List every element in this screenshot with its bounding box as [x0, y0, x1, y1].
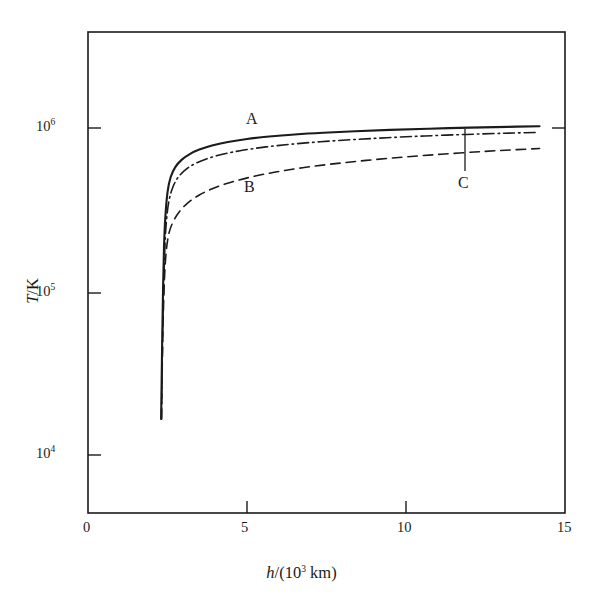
x-axis-title-open: /(10: [275, 563, 302, 582]
y-tick-label-1e4: 104: [36, 445, 55, 462]
y-tick-label-1e6: 106: [36, 118, 55, 135]
y-axis-ticks: [88, 128, 565, 455]
plot-frame: [88, 32, 565, 513]
data-curves: [161, 126, 539, 419]
y-tick-exponent: 6: [51, 117, 56, 127]
y-tick-exponent: 4: [51, 444, 56, 454]
plot-canvas: [0, 0, 603, 605]
y-axis-title-symbol: T: [23, 295, 42, 304]
curve-label-c: C: [458, 174, 469, 192]
curve-b-dashed: [161, 149, 539, 419]
y-tick-mantissa: 10: [36, 445, 51, 461]
curve-a-solid: [161, 126, 539, 419]
x-tick-label-10: 10: [397, 519, 412, 536]
y-tick-mantissa: 10: [36, 118, 51, 134]
y-axis-title-unit: /K: [23, 278, 42, 295]
curve-label-b: B: [244, 178, 255, 196]
x-axis-ticks: [247, 501, 406, 513]
figure-container: 106 105 104 0 5 10 15 T/K h/(103 km) A B…: [0, 0, 603, 605]
x-tick-label-5: 5: [241, 519, 248, 536]
x-axis-title-symbol: h: [266, 563, 274, 582]
axes-box: [88, 32, 565, 513]
x-axis-title: h/(103 km): [0, 563, 603, 583]
x-tick-label-0: 0: [83, 519, 90, 536]
curve-c-dash-dot: [161, 132, 536, 419]
x-tick-label-15: 15: [557, 519, 572, 536]
curve-label-a: A: [246, 110, 258, 128]
y-axis-title: T/K: [23, 256, 43, 326]
x-axis-title-close: km): [306, 563, 337, 582]
y-tick-exponent: 5: [51, 282, 56, 292]
